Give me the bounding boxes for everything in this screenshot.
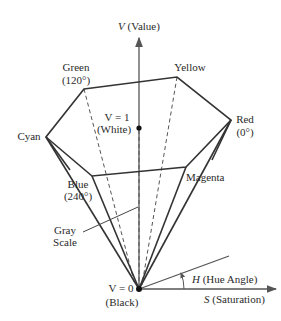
- white-label: (White): [97, 123, 132, 136]
- green-label: Green: [63, 61, 90, 73]
- dashed-edges: [84, 77, 177, 286]
- black-eq: V = 0: [109, 282, 134, 294]
- saturation-axis-label: S (Saturation): [204, 293, 265, 306]
- hue-axis-label: H (Hue Angle): [191, 273, 258, 286]
- value-axis-label: V (Value): [118, 20, 160, 33]
- blue-angle: (240°): [64, 190, 93, 203]
- hsv-hexcone-diagram: V (Value) Green (120°) Yellow Red (0°) C…: [0, 0, 281, 321]
- gray-scale-line2: Scale: [53, 236, 77, 248]
- red-angle: (0°): [236, 126, 254, 139]
- green-angle: (120°): [62, 74, 91, 87]
- red-label: Red: [236, 113, 254, 125]
- gray-scale-line1: Gray: [54, 224, 76, 236]
- black-point: [136, 286, 142, 292]
- yellow-label: Yellow: [174, 61, 205, 73]
- magenta-label: Magenta: [186, 171, 225, 183]
- cyan-label: Cyan: [17, 130, 41, 142]
- black-label: (Black): [106, 296, 139, 309]
- hue-angle-arc: [181, 273, 184, 289]
- blue-label: Blue: [68, 178, 89, 190]
- white-point: [136, 125, 141, 130]
- white-eq: V = 1: [105, 111, 130, 123]
